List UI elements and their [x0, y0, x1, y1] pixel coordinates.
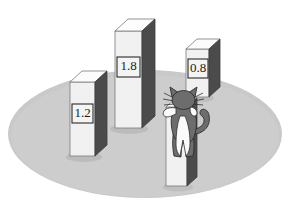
bar-2-value-label: 1.8: [120, 58, 136, 73]
bar-2-side-face: [142, 19, 155, 128]
bar-3-side-face: [209, 39, 220, 97]
bar-1: 1.2: [66, 71, 107, 162]
illustration-canvas: 1.2 1.8 0.8: [0, 0, 291, 216]
bar-2: 1.8: [110, 19, 155, 134]
bar-2-front-face: [115, 31, 142, 128]
bar-3-value-label: 0.8: [190, 60, 206, 75]
bar-1-side-face: [95, 71, 107, 156]
cat-head: [172, 91, 195, 110]
bar-1-value-label: 1.2: [74, 105, 90, 120]
bar-chart-svg: 1.2 1.8 0.8: [0, 0, 291, 216]
